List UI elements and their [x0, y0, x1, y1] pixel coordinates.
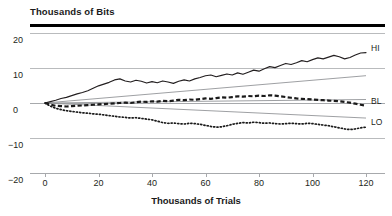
series-line-lo — [45, 103, 366, 130]
chart-container: Thousands of Bits 20100−10−20 −200204060… — [0, 0, 392, 216]
x-tick-80 — [259, 173, 260, 177]
reference-lines-group — [45, 76, 366, 118]
x-axis-title: Thousands of Trials — [0, 195, 392, 206]
series-label-lo: LO — [371, 117, 382, 127]
series-label-bl: BL — [371, 96, 381, 106]
x-tick-label-40: 40 — [147, 178, 157, 188]
plot-area — [0, 0, 392, 216]
x-tick-label-120: 120 — [358, 178, 373, 188]
x-tick-label-60: 60 — [200, 178, 210, 188]
x-tick-20 — [99, 173, 100, 177]
x-tick-0 — [45, 173, 46, 177]
x-tick-label-80: 80 — [254, 178, 264, 188]
series-line-hi — [45, 53, 366, 103]
x-tick-label-100: 100 — [305, 178, 320, 188]
x-tick-100 — [313, 173, 314, 177]
x-tick-40 — [152, 173, 153, 177]
series-label-hi: HI — [371, 43, 380, 53]
x-tick-label-20: 20 — [93, 178, 103, 188]
data-series-group — [45, 53, 366, 130]
x-tick-120 — [366, 173, 367, 177]
x-tick-label-0: 0 — [42, 178, 47, 188]
x-tick-60 — [206, 173, 207, 177]
